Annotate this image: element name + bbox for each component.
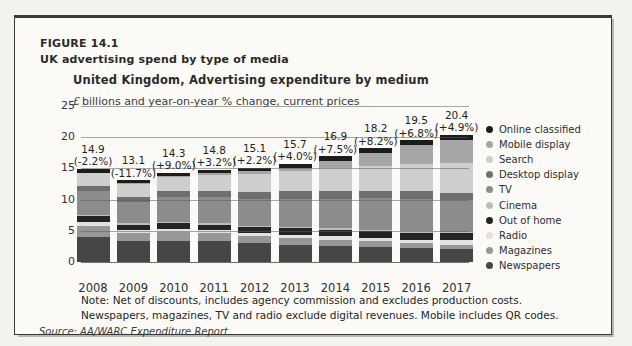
bar bbox=[279, 164, 312, 262]
bar-segment-tv bbox=[117, 202, 150, 223]
figure-label: FIGURE 14.1 bbox=[40, 37, 119, 50]
legend-bullet-icon bbox=[486, 232, 493, 239]
figure-panel: FIGURE 14.1 UK advertising spend by type… bbox=[14, 15, 612, 335]
y-axis-tick-label: 0 bbox=[47, 255, 75, 269]
x-axis-label: 2012 bbox=[233, 281, 277, 295]
bar-segment-search bbox=[198, 175, 231, 191]
bar bbox=[157, 173, 190, 262]
bar-segment-tv bbox=[157, 197, 190, 222]
note-line-2: Newspapers, magazines, TV and radio excl… bbox=[81, 309, 559, 321]
bar-segment-search bbox=[319, 168, 352, 191]
bar-segment-desktop-display bbox=[400, 191, 433, 199]
bar-yoy-label: (+4.9%) bbox=[425, 121, 489, 134]
bar-segment-tv bbox=[359, 198, 392, 229]
bar-segment-tv bbox=[319, 199, 352, 228]
bar-segment-tv bbox=[238, 199, 271, 226]
bar-segment-newspapers bbox=[198, 241, 231, 262]
bar-segment-newspapers bbox=[77, 237, 110, 262]
bar-segment-newspapers bbox=[238, 243, 271, 262]
legend-bullet-icon bbox=[486, 186, 493, 193]
legend-label: TV bbox=[499, 184, 512, 195]
bar-segment-desktop-display bbox=[279, 191, 312, 199]
y-axis-tick-label: 10 bbox=[47, 193, 75, 207]
chart-title: United Kingdom, Advertising expenditure … bbox=[73, 73, 429, 87]
gridline bbox=[81, 231, 469, 232]
x-axis-label: 2013 bbox=[273, 281, 317, 295]
bar-segment-out-of-home bbox=[359, 231, 392, 238]
bar-segment-magazines bbox=[279, 238, 312, 245]
bar-segment-desktop-display bbox=[319, 191, 352, 199]
bar bbox=[359, 148, 392, 262]
bar bbox=[77, 169, 110, 262]
figure-caption: UK advertising spend by type of media bbox=[40, 53, 289, 66]
bar bbox=[117, 180, 150, 262]
bar-segment-tv bbox=[440, 200, 473, 232]
legend-bullet-icon bbox=[486, 217, 493, 224]
legend-bullet-icon bbox=[486, 171, 493, 178]
bar-segment-desktop-display bbox=[359, 191, 392, 199]
legend-item-newspapers: Newspapers bbox=[486, 258, 581, 273]
bar-segment-newspapers bbox=[117, 241, 150, 262]
bar-segment-newspapers bbox=[440, 249, 473, 262]
bar-segment-out-of-home bbox=[440, 233, 473, 240]
legend-bullet-icon bbox=[486, 156, 493, 163]
x-axis-label: 2017 bbox=[435, 281, 479, 295]
gridline bbox=[81, 200, 469, 201]
bar-segment-mobile-display bbox=[440, 140, 473, 163]
bar-segment-newspapers bbox=[400, 248, 433, 262]
bar-segment-tv bbox=[400, 199, 433, 232]
bar-segment-magazines bbox=[198, 233, 231, 241]
bar-segment-search bbox=[117, 184, 150, 197]
legend-item-mobile-display: Mobile display bbox=[486, 137, 581, 152]
legend-label: Search bbox=[499, 154, 533, 165]
bar-segment-search bbox=[157, 177, 190, 191]
legend-label: Out of home bbox=[499, 215, 561, 226]
legend-label: Newspapers bbox=[499, 260, 560, 271]
bar-segment-mobile-display bbox=[400, 145, 433, 164]
bar-segment-magazines bbox=[117, 233, 150, 242]
gridline bbox=[81, 106, 469, 107]
bar-segment-tv bbox=[198, 197, 231, 223]
bar-segment-desktop-display bbox=[238, 192, 271, 199]
legend: Online classifiedMobile displaySearchDes… bbox=[486, 122, 581, 273]
legend-item-cinema: Cinema bbox=[486, 197, 581, 212]
x-axis-label: 2014 bbox=[313, 281, 357, 295]
legend-label: Online classified bbox=[499, 124, 581, 135]
legend-item-online-classified: Online classified bbox=[486, 122, 581, 137]
y-axis-tick-label: 5 bbox=[47, 224, 75, 238]
bar bbox=[238, 168, 271, 262]
legend-bullet-icon bbox=[486, 141, 493, 148]
legend-bullet-icon bbox=[486, 202, 493, 209]
x-axis-label: 2008 bbox=[71, 281, 115, 295]
bar-segment-search bbox=[359, 166, 392, 191]
legend-label: Mobile display bbox=[499, 139, 571, 150]
bar-total-label: 20.4 bbox=[425, 109, 489, 122]
x-axis-label: 2016 bbox=[394, 281, 438, 295]
legend-item-out-of-home: Out of home bbox=[486, 213, 581, 228]
legend-label: Magazines bbox=[499, 245, 552, 256]
x-axis-label: 2011 bbox=[192, 281, 236, 295]
bar-segment-newspapers bbox=[279, 245, 312, 263]
x-axis-label: 2015 bbox=[354, 281, 398, 295]
y-axis-tick-label: 25 bbox=[47, 99, 75, 113]
bar bbox=[400, 140, 433, 262]
bar-segment-search bbox=[279, 171, 312, 191]
bar-segment-newspapers bbox=[359, 247, 392, 262]
note-line-1: Note: Net of discounts, includes agency … bbox=[81, 294, 522, 306]
bar bbox=[319, 156, 352, 262]
bar-segment-search bbox=[238, 174, 271, 192]
legend-bullet-icon bbox=[486, 247, 493, 254]
legend-item-tv: TV bbox=[486, 182, 581, 197]
x-axis-line bbox=[81, 262, 469, 263]
legend-bullet-icon bbox=[486, 262, 493, 269]
legend-label: Desktop display bbox=[499, 169, 579, 180]
legend-item-desktop-display: Desktop display bbox=[486, 167, 581, 182]
bar-segment-out-of-home bbox=[400, 233, 433, 240]
bar-segment-magazines bbox=[238, 236, 271, 244]
legend-label: Radio bbox=[499, 230, 527, 241]
legend-item-radio: Radio bbox=[486, 228, 581, 243]
bar bbox=[440, 135, 473, 263]
legend-label: Cinema bbox=[499, 200, 537, 211]
x-axis-label: 2009 bbox=[111, 281, 155, 295]
x-axis-label: 2010 bbox=[152, 281, 196, 295]
